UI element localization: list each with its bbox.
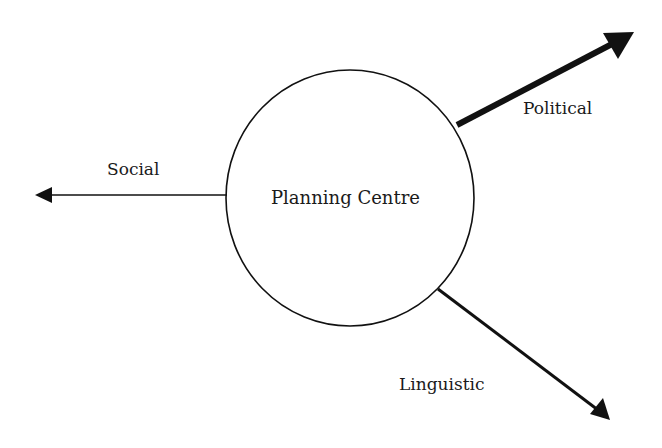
social-arrowhead-icon — [35, 187, 52, 203]
linguistic-arrowhead-icon — [590, 398, 610, 420]
social-label: Social — [107, 161, 159, 178]
social-arrow — [35, 187, 227, 203]
linguistic-arrow — [438, 289, 610, 420]
planning-centre-label: Planning Centre — [271, 189, 420, 207]
political-label: Political — [523, 100, 592, 117]
linguistic-label: Linguistic — [399, 376, 484, 393]
planning-centre-diagram — [0, 0, 662, 448]
